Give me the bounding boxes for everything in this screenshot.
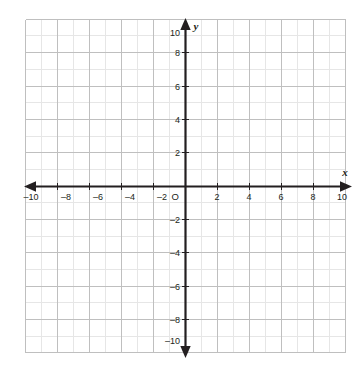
x-tick-label: 10 [337,192,347,202]
y-tick-label: –4 [170,248,180,258]
x-axis-negative-tick-labels: –10 –8 –6 –4 –2 [23,192,167,202]
x-tick-label: –6 [93,192,103,202]
y-tick-label: 2 [175,148,180,158]
x-axis-label: x [341,166,348,178]
y-tick-label: –2 [170,215,180,225]
x-tick-label: –4 [125,192,135,202]
y-axis-positive-tick-labels: 10 8 6 4 2 [170,28,180,158]
x-axis-positive-tick-labels: 2 4 6 8 10 [214,192,347,202]
y-tick-label: –10 [165,336,180,346]
x-tick-label: –2 [157,192,167,202]
x-tick-label: –10 [23,192,38,202]
y-tick-label: 4 [175,115,180,125]
x-tick-label: 2 [214,192,219,202]
y-tick-label: 6 [175,82,180,92]
y-tick-label: 10 [170,28,180,38]
coordinate-plane-svg: –10 –8 –6 –4 –2 2 4 6 8 10 10 8 6 4 2 –2… [0,0,363,373]
origin-label: O [172,191,179,202]
y-tick-label: 8 [175,48,180,58]
x-tick-label: 6 [278,192,283,202]
y-tick-label: –6 [170,282,180,292]
coordinate-plane-graph: –10 –8 –6 –4 –2 2 4 6 8 10 10 8 6 4 2 –2… [0,0,363,373]
y-axis-label: y [192,20,199,32]
y-axis-negative-tick-labels: –2 –4 –6 –8 –10 [165,215,180,346]
x-tick-label: 4 [246,192,251,202]
x-tick-label: 8 [310,192,315,202]
y-tick-label: –8 [170,315,180,325]
x-tick-label: –8 [61,192,71,202]
